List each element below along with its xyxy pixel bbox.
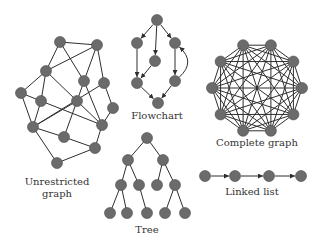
node: [296, 171, 307, 182]
node: [16, 88, 27, 99]
node: [170, 38, 181, 49]
node: [297, 83, 308, 94]
node: [264, 171, 275, 182]
node: [158, 155, 169, 166]
node: [230, 171, 241, 182]
graph-types-diagram: Unrestrictedgraph Flowchart Complete gra…: [0, 0, 327, 241]
node: [150, 56, 161, 67]
node: [142, 208, 153, 219]
node: [152, 180, 163, 191]
edge: [161, 25, 172, 39]
node: [36, 96, 47, 107]
node: [55, 37, 66, 48]
node: [288, 56, 299, 67]
node: [105, 208, 116, 219]
node: [116, 180, 127, 191]
curved-edge: [179, 47, 187, 77]
node: [215, 109, 226, 120]
node: [92, 40, 103, 51]
node: [90, 143, 101, 154]
edge: [33, 127, 57, 163]
linked-list: Linked list: [200, 171, 307, 198]
flowchart: Flowchart: [131, 15, 187, 122]
node: [52, 158, 63, 169]
node: [200, 171, 211, 182]
node: [79, 76, 90, 87]
edge: [141, 87, 153, 99]
linked-list-label: Linked list: [225, 186, 278, 197]
node: [59, 132, 70, 143]
node: [265, 125, 276, 136]
tree: Tree: [105, 133, 191, 236]
edge: [84, 81, 102, 125]
node: [160, 208, 171, 219]
complete-label: Complete graph: [216, 137, 298, 148]
node: [122, 208, 133, 219]
edge: [162, 86, 172, 99]
edge: [57, 148, 95, 163]
node: [207, 83, 218, 94]
node: [142, 133, 153, 144]
edge: [141, 66, 151, 79]
node: [41, 66, 52, 77]
node: [123, 155, 134, 166]
node: [132, 38, 143, 49]
node: [132, 78, 143, 89]
node: [134, 180, 145, 191]
tree-label: Tree: [135, 224, 158, 235]
complete-graph: Complete graph: [207, 40, 308, 148]
node: [170, 76, 181, 87]
node: [152, 15, 163, 26]
node: [288, 109, 299, 120]
unrestricted-label: Unrestricted: [25, 176, 90, 187]
flowchart-label: Flowchart: [131, 110, 183, 121]
node: [180, 208, 191, 219]
node: [97, 120, 108, 131]
node: [238, 40, 249, 51]
edge: [141, 25, 153, 39]
node: [108, 103, 119, 114]
node: [215, 56, 226, 67]
node: [153, 98, 164, 109]
unrestricted-graph: Unrestrictedgraph: [16, 37, 119, 200]
node: [72, 96, 83, 107]
node: [170, 180, 181, 191]
node: [99, 78, 110, 89]
unrestricted-label: graph: [42, 188, 73, 199]
edge: [46, 71, 77, 101]
node: [28, 122, 39, 133]
node: [265, 40, 276, 51]
node: [238, 125, 249, 136]
edge: [155, 26, 156, 55]
